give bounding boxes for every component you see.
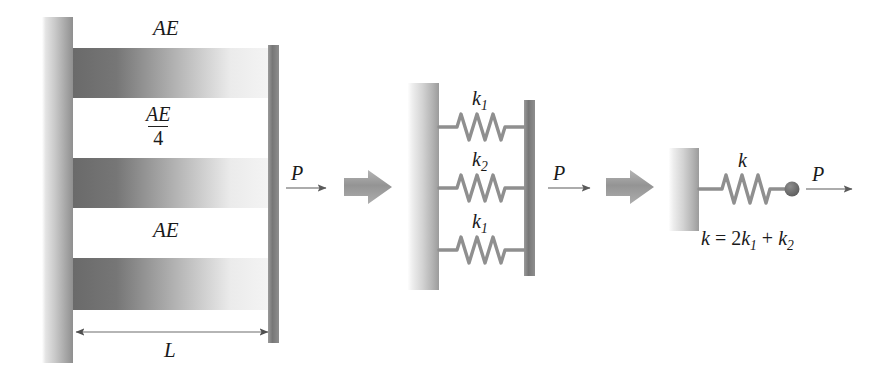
figure-canvas: AE AE 4 AE L P k1 k2 k1 P k k = 2k1 + k2… [0,0,884,374]
fraction-denominator: 4 [146,128,170,149]
spring-k1-bottom [439,237,524,263]
label-spring-k2-middle: k2 [472,149,488,174]
label-force-P-middle: P [553,163,565,183]
middle-panel-graphics [408,83,590,290]
mass-node [785,182,800,197]
left-panel-graphics [42,17,326,363]
fraction-numerator: AE [146,104,170,125]
label-force-P-right: P [812,164,824,184]
label-length-L: L [164,340,176,361]
label-bar-middle-AE-over-4: AE 4 [146,104,170,149]
axial-bar-top [73,48,270,98]
left-rigid-plate [268,45,279,343]
middle-support-wall [408,83,439,290]
label-bar-bottom-AE: AE [153,220,179,241]
spring-k2-middle [439,175,524,201]
right-panel-graphics [669,148,852,231]
equivalent-spring-k [699,175,787,203]
transition-block-arrow-2 [606,170,654,204]
label-bar-top-AE: AE [153,18,179,39]
left-support-wall [42,17,73,363]
equation-equivalent-stiffness: k = 2k1 + k2 [701,228,794,253]
axial-bar-middle [73,158,270,208]
axial-bar-bottom [73,258,270,310]
right-support-wall [669,148,699,231]
label-spring-k1-top: k1 [472,88,488,113]
label-spring-k: k [738,150,747,170]
label-spring-k1-bottom: k1 [472,211,488,236]
figure-graphics [0,0,884,374]
transition-block-arrow-1 [344,170,392,204]
label-force-P-left: P [291,163,303,183]
spring-k1-top [439,114,524,140]
